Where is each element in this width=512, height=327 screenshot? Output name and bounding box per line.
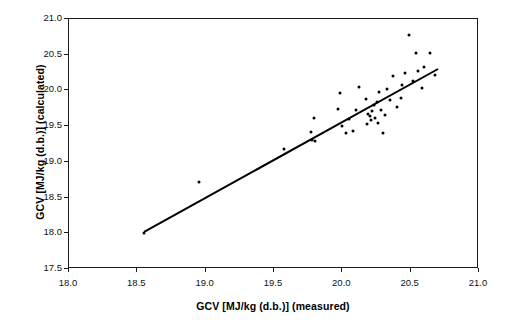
- x-tick-label: 18.0: [59, 278, 78, 288]
- data-point: [368, 115, 371, 118]
- data-point: [197, 180, 200, 183]
- data-point: [391, 75, 394, 78]
- data-point: [309, 130, 312, 133]
- data-point: [374, 116, 377, 119]
- data-point: [375, 100, 378, 103]
- data-point: [345, 131, 348, 134]
- data-point: [341, 125, 344, 128]
- data-point: [282, 148, 285, 151]
- data-point: [314, 140, 317, 143]
- data-point: [396, 105, 399, 108]
- x-tick-label: 20.0: [332, 278, 351, 288]
- data-point: [312, 116, 315, 119]
- x-tick-label: 21.0: [469, 278, 488, 288]
- y-tick-mark: [64, 18, 68, 19]
- y-tick-mark: [64, 232, 68, 233]
- data-point: [372, 104, 375, 107]
- data-point: [370, 119, 373, 122]
- data-point: [337, 108, 340, 111]
- data-point: [355, 109, 358, 112]
- y-tick-mark: [64, 54, 68, 55]
- data-point: [338, 91, 341, 94]
- x-tick-label: 20.5: [400, 278, 419, 288]
- data-point: [412, 80, 415, 83]
- plot-area: [68, 18, 478, 268]
- data-point: [352, 130, 355, 133]
- x-tick-mark: [273, 268, 274, 272]
- data-point: [365, 123, 368, 126]
- scatter-chart: 17.518.018.519.019.520.020.521.0 18.018.…: [0, 0, 512, 327]
- data-point: [423, 65, 426, 68]
- x-tick-mark: [341, 268, 342, 272]
- y-tick-mark: [64, 161, 68, 162]
- data-point: [378, 90, 381, 93]
- x-tick-mark: [68, 268, 69, 272]
- x-axis-title: GCV [MJ/kg (d.b.)] (measured): [68, 300, 478, 312]
- data-point: [434, 73, 437, 76]
- data-point: [371, 110, 374, 113]
- data-point: [428, 51, 431, 54]
- regression-line: [144, 69, 438, 232]
- x-tick-mark: [205, 268, 206, 272]
- x-tick-mark: [136, 268, 137, 272]
- y-tick-mark: [64, 125, 68, 126]
- data-point: [386, 88, 389, 91]
- data-point: [401, 83, 404, 86]
- data-point: [416, 70, 419, 73]
- data-point: [382, 131, 385, 134]
- data-point: [383, 114, 386, 117]
- data-point: [415, 52, 418, 55]
- data-layer: [69, 19, 479, 269]
- data-point: [376, 121, 379, 124]
- data-point: [357, 85, 360, 88]
- data-point: [400, 96, 403, 99]
- data-point: [143, 231, 146, 234]
- data-point: [364, 98, 367, 101]
- x-tick-mark: [410, 268, 411, 272]
- x-tick-label: 19.0: [195, 278, 214, 288]
- x-tick-mark: [478, 268, 479, 272]
- data-point: [389, 99, 392, 102]
- data-point: [420, 86, 423, 89]
- y-axis-title: GCV [MJ/kg (d.b.)] (calculated): [34, 17, 46, 267]
- y-tick-mark: [64, 89, 68, 90]
- data-point: [348, 118, 351, 121]
- data-point: [404, 71, 407, 74]
- y-tick-mark: [64, 197, 68, 198]
- data-point: [379, 108, 382, 111]
- x-tick-label: 18.5: [127, 278, 146, 288]
- data-point: [408, 33, 411, 36]
- x-tick-label: 19.5: [264, 278, 283, 288]
